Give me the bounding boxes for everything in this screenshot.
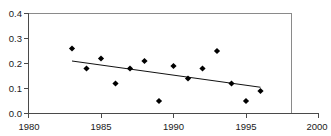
x-tick-label-1990: 1990 (163, 121, 184, 132)
data-point-group (69, 45, 264, 104)
data-point (127, 65, 133, 71)
y-tick-label-0.1: 0.1 (9, 83, 22, 94)
data-point (141, 58, 147, 64)
data-point (199, 65, 205, 71)
y-tick-label-0.0: 0.0 (9, 108, 22, 119)
data-point (228, 80, 234, 86)
data-point (83, 65, 89, 71)
data-point (243, 98, 249, 104)
y-tick-label-0.3: 0.3 (9, 33, 22, 44)
data-point (170, 63, 176, 69)
x-tick-label-2000: 2000 (306, 121, 327, 132)
data-point (98, 55, 104, 61)
x-tick-label-1995: 1995 (235, 121, 256, 132)
data-point (257, 88, 263, 94)
data-point (112, 80, 118, 86)
x-tick-label-1980: 1980 (18, 121, 39, 132)
data-point (185, 75, 191, 81)
chart-figure: 0.4 0.3 0.2 0.1 0.0 1980 1985 1990 1995 … (0, 0, 331, 136)
x-tick-label-1985: 1985 (90, 121, 111, 132)
y-tick-label-0.2: 0.2 (9, 58, 22, 69)
y-tick-label-0.4: 0.4 (9, 8, 22, 19)
data-point (156, 98, 162, 104)
data-point (69, 45, 75, 51)
data-point (214, 48, 220, 54)
scatter-plot: 0.4 0.3 0.2 0.1 0.0 1980 1985 1990 1995 … (0, 0, 331, 136)
